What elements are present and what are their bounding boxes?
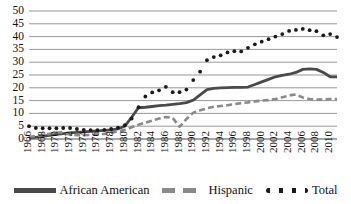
- chart-plot-area: [0, 0, 351, 204]
- series-point-total: [335, 35, 339, 39]
- series-point-total: [34, 126, 38, 130]
- series-point-total: [185, 88, 189, 92]
- legend-item-hispanic[interactable]: Hispanic: [162, 184, 252, 197]
- x-tick-label: 1966: [22, 131, 33, 153]
- series-point-total: [130, 117, 134, 121]
- x-tick-label: 1998: [241, 131, 252, 153]
- series-point-total: [191, 78, 195, 82]
- x-tick-label: 1996: [227, 131, 238, 153]
- legend-item-total[interactable]: Total: [266, 184, 338, 197]
- x-tick-label: 1976: [90, 131, 101, 153]
- series-point-total: [41, 126, 45, 130]
- series-point-total: [328, 32, 332, 36]
- x-tick-label: 1978: [104, 131, 115, 153]
- chart-container: 05101520253035404550 1966196819701972197…: [0, 0, 351, 204]
- x-tick-label: 1986: [159, 131, 170, 153]
- x-tick-label: 1994: [214, 131, 225, 153]
- x-tick-label: 1984: [145, 131, 156, 153]
- series-point-total: [294, 28, 298, 32]
- series-point-total: [274, 35, 278, 39]
- y-tick-label: 30: [0, 56, 24, 68]
- series-point-total: [137, 105, 141, 109]
- series-point-total: [54, 126, 58, 130]
- series-point-total: [280, 32, 284, 36]
- series-point-total: [287, 29, 291, 33]
- x-tick-label: 2006: [296, 131, 307, 153]
- series-point-total: [246, 46, 250, 50]
- series-point-total: [226, 51, 230, 55]
- series-point-total: [157, 88, 161, 92]
- x-tick-label: 2000: [255, 131, 266, 153]
- y-tick-label: 50: [0, 5, 24, 17]
- series-point-total: [315, 29, 319, 33]
- series-point-total: [171, 90, 175, 94]
- series-point-total: [308, 28, 312, 32]
- x-tick-label: 1990: [186, 131, 197, 153]
- legend-swatch-dotted: [266, 188, 308, 193]
- series-point-total: [212, 55, 216, 59]
- x-tick-label: 2002: [268, 131, 279, 153]
- series-point-total: [68, 126, 72, 130]
- legend-label: African American: [60, 184, 150, 197]
- legend-item-african-american[interactable]: African American: [14, 184, 150, 197]
- y-tick-label: 20: [0, 82, 24, 94]
- chart-legend: African AmericanHispanicTotal: [0, 180, 351, 200]
- legend-label: Total: [312, 184, 338, 197]
- series-point-total: [48, 126, 52, 130]
- x-tick-label: 2004: [282, 131, 293, 153]
- x-tick-label: 1980: [118, 131, 129, 153]
- y-tick-label: 10: [0, 107, 24, 119]
- legend-swatch-dashed: [162, 188, 204, 193]
- y-tick-label: 15: [0, 95, 24, 107]
- series-point-total: [239, 50, 243, 54]
- series-point-total: [61, 126, 65, 130]
- y-tick-label: 45: [0, 18, 24, 30]
- y-tick-label: 25: [0, 69, 24, 81]
- y-tick-label: 40: [0, 31, 24, 43]
- x-tick-label: 1974: [77, 131, 88, 153]
- x-tick-label: 1968: [36, 131, 47, 153]
- x-tick-label: 1972: [63, 131, 74, 153]
- series-point-total: [164, 85, 168, 89]
- series-point-total: [198, 70, 202, 74]
- x-tick-label: 2008: [309, 131, 320, 153]
- series-point-total: [27, 124, 31, 128]
- series-point-total: [321, 33, 325, 37]
- series-point-total: [219, 53, 223, 57]
- series-point-total: [267, 37, 271, 41]
- series-point-total: [143, 95, 147, 99]
- x-tick-label: 1970: [49, 131, 60, 153]
- legend-swatch-solid: [14, 188, 56, 193]
- y-tick-label: 35: [0, 43, 24, 55]
- series-point-total: [123, 123, 127, 127]
- x-tick-label: 1992: [200, 131, 211, 153]
- x-tick-label: 1982: [132, 131, 143, 153]
- y-tick-label: 5: [0, 120, 24, 132]
- x-tick-label: 1988: [173, 131, 184, 153]
- series-line-african-american: [29, 69, 337, 139]
- series-layer: [27, 27, 339, 139]
- series-point-total: [178, 90, 182, 94]
- series-point-total: [150, 91, 154, 95]
- legend-label: Hispanic: [208, 184, 252, 197]
- x-tick-label: 2010: [323, 131, 334, 153]
- series-point-total: [205, 58, 209, 62]
- series-point-total: [232, 49, 236, 53]
- series-point-total: [253, 42, 257, 46]
- series-point-total: [301, 27, 305, 31]
- series-point-total: [116, 126, 120, 130]
- series-point-total: [260, 40, 264, 44]
